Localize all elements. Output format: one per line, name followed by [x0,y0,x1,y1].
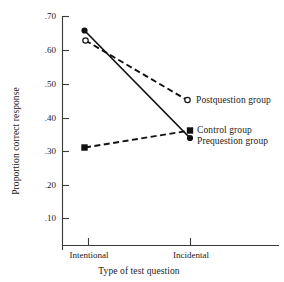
series-line-control [85,31,191,139]
marker-control-incidental [187,135,193,141]
series-line-prequestion [85,131,190,148]
series-line-postquestion [86,41,188,101]
marker-postquestion-incidental [185,97,190,102]
y-tick-label-60: .60 [34,46,56,55]
y-tick-label-20: .20 [34,181,56,190]
marker-prequestion-incidental [187,127,193,133]
chart-figure: .70 .60 .50 .40 .30 .20 .10 Intentional … [0,0,284,282]
series-label-prequestion: Prequestion group [197,136,268,146]
y-tick-label-30: .30 [34,147,56,156]
x-tick-label-incidental: Incidental [151,250,231,260]
x-axis-title: Type of test question [59,266,219,276]
y-tick-label-70: .70 [34,12,56,21]
y-axis-title: Proportion correct response [10,0,22,282]
series-label-control: Control group [197,125,252,135]
y-tick-label-40: .40 [34,114,56,123]
marker-prequestion-intentional [81,144,87,150]
marker-control-intentional [81,27,87,33]
y-tick-label-50: .50 [34,80,56,89]
y-tick-marks [63,17,70,219]
marker-postquestion-intentional [83,38,88,43]
x-tick-marks [89,238,191,246]
series-label-postquestion: Postquestion group [196,95,271,105]
y-tick-label-10: .10 [34,214,56,223]
x-tick-label-intentional: Intentional [49,250,129,260]
